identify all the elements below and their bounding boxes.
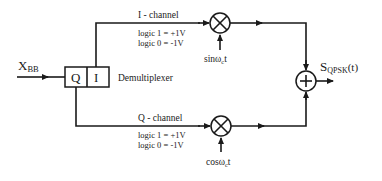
qpsk-block-diagram: XBB Q I Demultiplexer I - channel logic …	[0, 0, 382, 181]
i-output-path	[230, 23, 306, 70]
input-signal: XBB	[17, 58, 65, 77]
demultiplexer: Q I Demultiplexer	[65, 67, 174, 87]
i-channel-title: I - channel	[138, 10, 179, 20]
q-channel-logic1: logic 1 = +1V	[138, 130, 186, 140]
q-carrier-label: cosωct	[206, 157, 231, 168]
input-label: XBB	[18, 58, 39, 74]
output-label: SQPSK(t)	[320, 59, 358, 75]
i-channel-logic1: logic 1 = +1V	[138, 28, 186, 38]
q-channel-title: Q - channel	[138, 113, 183, 123]
i-channel-path: I - channel logic 1 = +1V logic 0 = -1V	[96, 10, 209, 67]
i-output-wire	[260, 23, 306, 65]
demux-i-cell: I	[94, 70, 98, 85]
i-multiplier: sinωct	[204, 13, 230, 65]
demux-q-cell: Q	[71, 70, 81, 85]
i-channel-logic0: logic 0 = -1V	[138, 38, 184, 48]
q-multiplier: cosωct	[206, 116, 231, 168]
q-channel-logic0: logic 0 = -1V	[138, 140, 184, 150]
demux-label: Demultiplexer	[118, 73, 174, 83]
q-output-wire	[262, 98, 306, 126]
q-channel-path: Q - channel logic 1 = +1V logic 0 = -1V	[76, 87, 210, 150]
i-carrier-label: sinωct	[204, 54, 227, 65]
q-output-path	[231, 92, 306, 126]
